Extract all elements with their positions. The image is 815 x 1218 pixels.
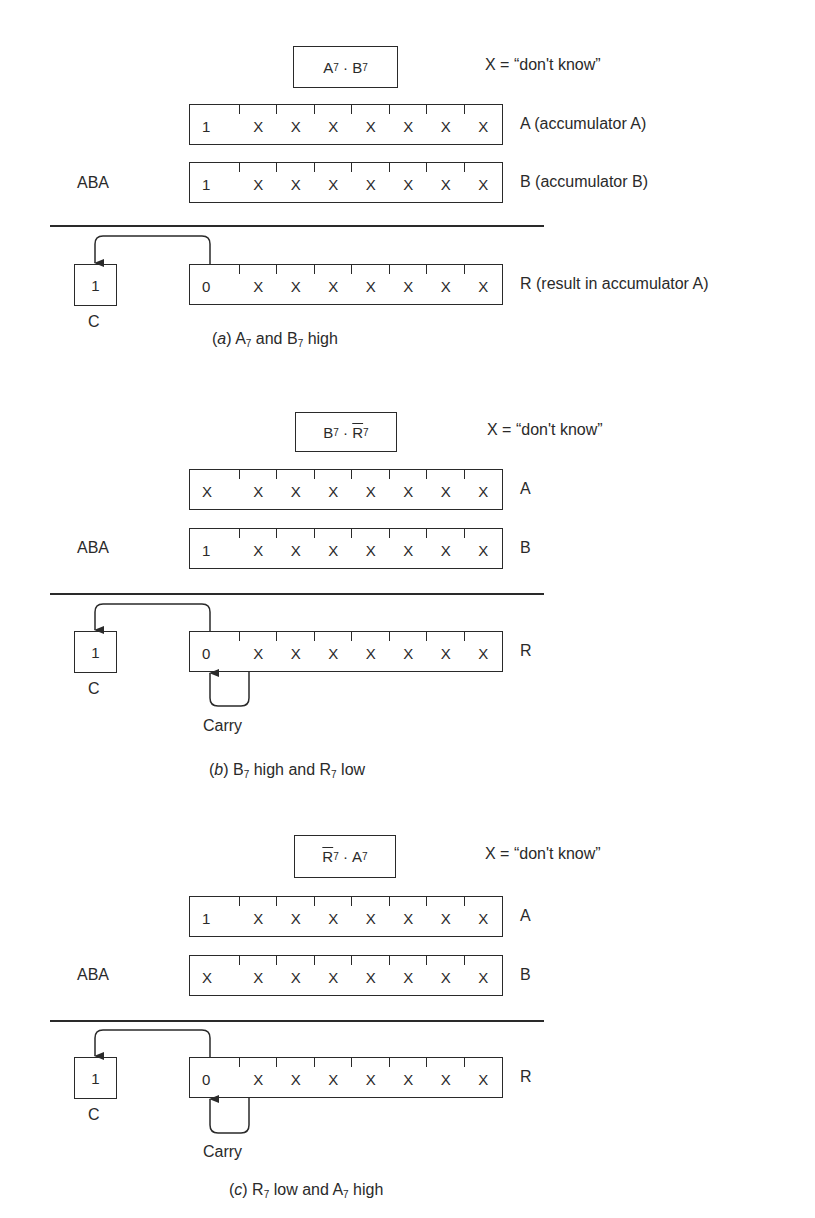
subscript: 7 [363,427,369,438]
bit-0: X [465,470,503,509]
bit-5: X [277,265,315,304]
carry-out-arrow [95,1030,210,1057]
bit-6: X [240,897,278,936]
caption-part: B [287,330,298,347]
condition-box-b: B7 · R7 [295,412,397,452]
bit-4: X [315,470,353,509]
carry-flag-label: C [88,313,100,331]
register-a: 1 X X X X X X X [189,104,503,145]
bit-6: X [240,956,278,995]
register-r-label: R [520,1068,532,1086]
result-divider [50,1020,544,1022]
caption-part: and [251,330,287,347]
bit-0: X [465,105,503,144]
bit-1: X [427,632,465,671]
caption-part: high [303,330,338,347]
bit-4: X [315,897,353,936]
bit-7: 1 [190,105,240,144]
subscript: 7 [362,851,368,862]
internal-carry-arrow [210,672,249,706]
operation-label: ABA [77,174,109,192]
bit-7: X [190,470,240,509]
caption-c: (c) R7 low and A7 high [229,1181,383,1200]
bit-7: 0 [190,265,240,304]
bit-2: X [390,105,428,144]
caption-letter: c [234,1181,242,1198]
bit-7: 1 [190,897,240,936]
bit-4: X [315,265,353,304]
bit-2: X [390,1058,428,1097]
register-r-label: R [520,642,532,660]
internal-carry-arrow [210,1098,249,1133]
carry-flag-label: C [88,1106,100,1124]
bit-6: X [240,1058,278,1097]
carry-flag-box: 1 [74,631,117,673]
register-a-label: A [520,480,531,498]
and-dot: · [343,848,348,865]
caption-part: high and [249,761,319,778]
bit-5: X [277,1058,315,1097]
bit-6: X [240,105,278,144]
condition-term-1-negated: R [322,848,333,865]
bit-4: X [315,529,353,568]
bit-2: X [390,163,428,202]
bit-3: X [352,897,390,936]
register-b-label: B (accumulator B) [520,173,648,191]
bit-7: 0 [190,1058,240,1097]
caption-part: high [349,1181,384,1198]
caption-letter: a [217,330,226,347]
bit-6: X [240,529,278,568]
caption-a: (a) A7 and B7 high [212,330,338,349]
bit-4: X [315,163,353,202]
subscript: 7 [362,62,368,73]
caption-part: A [235,330,246,347]
caption-part: low [337,761,365,778]
carry-flag-label: C [88,680,100,698]
bit-0: X [465,1058,503,1097]
bit-1: X [427,105,465,144]
bit-2: X [390,529,428,568]
bit-0: X [465,529,503,568]
bit-0: X [465,632,503,671]
register-a: X X X X X X X X [189,469,503,510]
bit-2: X [390,632,428,671]
and-dot: · [343,59,348,76]
result-divider [50,225,544,227]
caption-part: R [252,1181,264,1198]
bit-5: X [277,632,315,671]
internal-carry-label: Carry [203,1143,242,1161]
condition-term-2: A [352,848,362,865]
bit-5: X [277,956,315,995]
and-dot: · [343,424,348,441]
bit-6: X [240,265,278,304]
bit-2: X [390,897,428,936]
bit-3: X [352,163,390,202]
register-b: X X X X X X X X [189,955,503,996]
bit-4: X [315,105,353,144]
caption-b: (b) B7 high and R7 low [209,761,365,780]
subscript: 7 [333,62,339,73]
bit-4: X [315,956,353,995]
bit-6: X [240,163,278,202]
register-r-label: R (result in accumulator A) [520,275,709,293]
caption-part: R [320,761,332,778]
bit-7: 1 [190,529,240,568]
register-a-label: A [520,907,531,925]
register-b: 1 X X X X X X X [189,162,503,203]
carry-out-arrow [95,236,210,264]
legend-dont-know: X = “don't know” [487,421,603,439]
condition-term-2-negated: R [352,424,363,441]
bit-5: X [277,529,315,568]
bit-3: X [352,1058,390,1097]
bit-2: X [390,956,428,995]
bit-6: X [240,632,278,671]
carry-out-arrow [95,604,210,631]
bit-3: X [352,956,390,995]
bit-4: X [315,1058,353,1097]
condition-term-1: B [323,424,333,441]
register-r: 0 X X X X X X X [189,631,503,672]
bit-0: X [465,956,503,995]
bit-3: X [352,529,390,568]
bit-0: X [465,897,503,936]
caption-part: A [332,1181,343,1198]
